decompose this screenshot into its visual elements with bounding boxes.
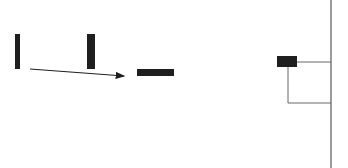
arrow [30, 69, 124, 76]
connector-lines [0, 0, 348, 168]
